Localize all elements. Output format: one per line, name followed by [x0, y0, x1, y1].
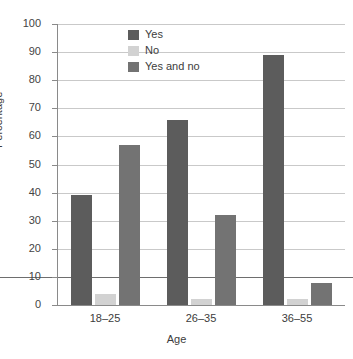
legend-swatch-icon-no [128, 46, 139, 56]
y-tick-label-0: 0 [0, 299, 49, 310]
y-tick-label-30: 30 [0, 215, 49, 226]
bar-yes-1 [71, 195, 92, 305]
bar-no-1 [95, 294, 116, 305]
y-tick-label-100: 100 [0, 18, 49, 29]
x-tick-label-2: 26–35 [153, 312, 249, 324]
y-tick-label-10: 10 [0, 271, 49, 282]
y-tick-label-20: 20 [0, 243, 49, 254]
legend-item-yes[interactable]: Yes [128, 27, 200, 42]
legend-item-yesno[interactable]: Yes and no [128, 59, 200, 74]
x-tick-label-3: 36–55 [249, 312, 345, 324]
bar-yes-2 [167, 120, 188, 305]
chart-legend: YesNoYes and no [128, 27, 200, 75]
y-axis-title: Percentage [0, 92, 4, 148]
gridline-0 [57, 305, 345, 306]
legend-swatch-icon-yes [128, 30, 139, 40]
legend-label-no: No [145, 45, 159, 56]
y-tick-label-80: 80 [0, 74, 49, 85]
bar-no-3 [287, 299, 308, 305]
bar-yesno-2 [215, 215, 236, 305]
y-tick-label-60: 60 [0, 130, 49, 141]
bar-yesno-1 [119, 145, 140, 305]
x-axis-title: Age [0, 333, 353, 345]
y-tick-label-50: 50 [0, 159, 49, 170]
x-tick-label-1: 18–25 [57, 312, 153, 324]
y-tick-mark-0 [52, 305, 57, 306]
bar-yes-3 [263, 55, 284, 305]
legend-label-yesno: Yes and no [145, 61, 200, 72]
y-tick-label-70: 70 [0, 102, 49, 113]
plot-area [57, 24, 345, 305]
bar-yesno-3 [311, 283, 332, 305]
legend-swatch-icon-yesno [128, 62, 139, 72]
y-tick-label-40: 40 [0, 187, 49, 198]
bar-chart: 0102030405060708090100 Percentage 18–252… [0, 0, 353, 359]
bar-no-2 [191, 299, 212, 305]
legend-item-no[interactable]: No [128, 43, 200, 58]
y-tick-label-90: 90 [0, 46, 49, 57]
legend-label-yes: Yes [145, 29, 163, 40]
